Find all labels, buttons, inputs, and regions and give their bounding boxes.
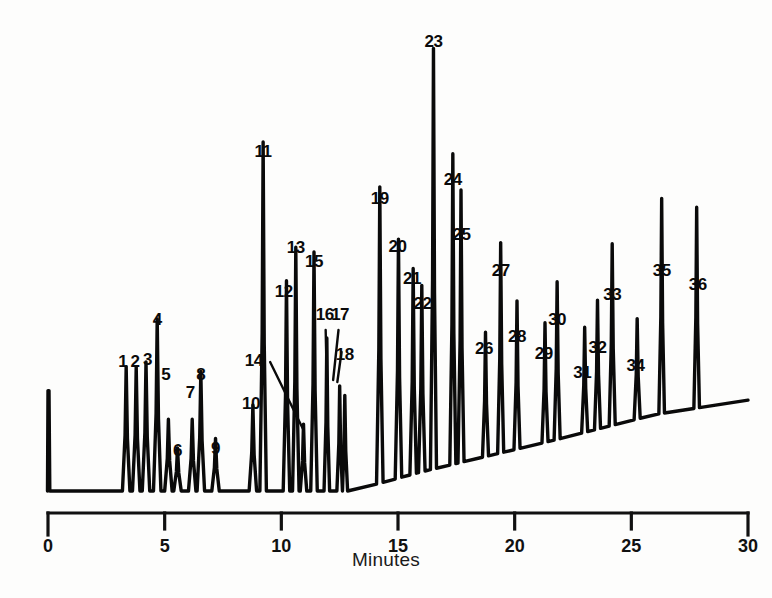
x-axis xyxy=(48,513,748,535)
chromatogram-plot xyxy=(0,0,772,598)
peak-label-13: 13 xyxy=(287,239,305,256)
peak-label-3: 3 xyxy=(143,351,152,368)
peak-label-19: 19 xyxy=(371,190,389,207)
peak-label-12: 12 xyxy=(275,283,293,300)
chromatogram-figure: 1234567891011121314151617181920212223242… xyxy=(0,0,772,598)
peak-label-15: 15 xyxy=(305,253,323,270)
peak-label-5: 5 xyxy=(161,366,170,383)
peak-label-24: 24 xyxy=(444,171,462,188)
peak-label-30: 30 xyxy=(548,311,566,328)
peak-label-11: 11 xyxy=(255,143,272,160)
peak-label-4: 4 xyxy=(153,311,162,328)
peak-label-35: 35 xyxy=(653,262,671,279)
peak-label-20: 20 xyxy=(389,238,407,255)
peak-label-6: 6 xyxy=(173,442,182,459)
peak-label-21: 21 xyxy=(403,270,421,287)
peak-label-8: 8 xyxy=(196,366,205,383)
peak-label-7: 7 xyxy=(186,384,195,401)
peak-label-22: 22 xyxy=(414,295,432,312)
chromatogram-trace xyxy=(48,48,749,491)
trace-path xyxy=(48,48,749,491)
peak-label-2: 2 xyxy=(131,353,140,370)
peak-label-17: 17 xyxy=(331,306,349,323)
peak-label-29: 29 xyxy=(535,345,553,362)
peak-label-14: 14 xyxy=(245,352,263,369)
peak-label-23: 23 xyxy=(425,33,443,50)
peak-label-25: 25 xyxy=(453,226,471,243)
label-leader-lines xyxy=(270,330,341,430)
peak-label-32: 32 xyxy=(589,339,607,356)
peak-label-28: 28 xyxy=(508,328,526,345)
peak-label-36: 36 xyxy=(689,276,707,293)
leader-line-peak-16 xyxy=(326,330,328,405)
peak-label-18: 18 xyxy=(336,346,354,363)
peak-label-27: 27 xyxy=(492,262,510,279)
peak-label-10: 10 xyxy=(242,395,260,412)
peak-label-1: 1 xyxy=(118,353,127,370)
x-axis-title: Minutes xyxy=(0,549,772,571)
peak-label-33: 33 xyxy=(603,286,621,303)
peak-label-34: 34 xyxy=(627,357,645,374)
peak-label-26: 26 xyxy=(475,340,493,357)
peak-label-9: 9 xyxy=(211,440,220,457)
peak-label-31: 31 xyxy=(573,364,591,381)
